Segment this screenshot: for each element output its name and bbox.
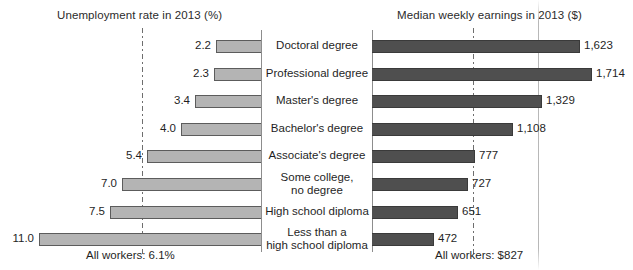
earnings-bar <box>372 40 580 53</box>
unemployment-bar <box>181 123 261 136</box>
chart-row: 5.4Associate's degree777 <box>0 143 633 170</box>
category-label: Doctoral degree <box>264 39 370 52</box>
category-label-line1: Doctoral degree <box>264 39 370 52</box>
unemployment-value-label: 2.3 <box>149 66 209 81</box>
chart-canvas: Unemployment rate in 2013 (%) Median wee… <box>0 0 633 270</box>
earnings-value-label: 651 <box>462 204 481 219</box>
category-label-line2: high school diploma <box>264 239 370 252</box>
unemployment-bar <box>214 68 261 81</box>
right-chart-footnote: All workers: $827 <box>435 249 523 261</box>
category-label: Associate's degree <box>264 149 370 162</box>
earnings-bar <box>372 178 468 191</box>
unemployment-bar <box>195 95 261 108</box>
earnings-bar <box>372 233 434 246</box>
unemployment-value-label: 7.5 <box>45 204 105 219</box>
unemployment-bar <box>147 150 261 163</box>
category-label-line1: High school diploma <box>264 205 370 218</box>
chart-row: 3.4Master's degree1,329 <box>0 88 633 115</box>
earnings-value-label: 1,329 <box>546 93 575 108</box>
unemployment-value-label: 7.0 <box>57 176 117 191</box>
earnings-value-label: 777 <box>479 148 498 163</box>
earnings-bar <box>372 68 592 81</box>
earnings-value-label: 1,714 <box>596 66 625 81</box>
category-label: Some college,no degree <box>264 171 370 196</box>
category-label: Less than ahigh school diploma <box>264 226 370 251</box>
unemployment-value-label: 11.0 <box>0 231 34 246</box>
chart-row: 4.0Bachelor's degree1,108 <box>0 116 633 143</box>
category-label: Bachelor's degree <box>264 122 370 135</box>
category-label: Professional degree <box>264 67 370 80</box>
unemployment-bar <box>216 40 261 53</box>
left-chart-footnote: All workers: 6.1% <box>86 249 175 261</box>
earnings-bar <box>372 123 513 136</box>
unemployment-value-label: 5.4 <box>82 148 142 163</box>
category-label: High school diploma <box>264 205 370 218</box>
category-label-line1: Associate's degree <box>264 149 370 162</box>
unemployment-bar <box>122 178 261 191</box>
chart-row: 2.3Professional degree1,714 <box>0 61 633 88</box>
earnings-bar <box>372 95 542 108</box>
earnings-bar <box>372 206 458 219</box>
earnings-value-label: 727 <box>472 176 491 191</box>
category-label-line1: Less than a <box>264 226 370 239</box>
right-chart-title: Median weekly earnings in 2013 ($) <box>397 9 582 21</box>
earnings-value-label: 472 <box>438 231 457 246</box>
unemployment-bar <box>110 206 261 219</box>
chart-row: 7.5High school diploma651 <box>0 199 633 226</box>
left-chart-title: Unemployment rate in 2013 (%) <box>57 9 222 21</box>
earnings-value-label: 1,108 <box>517 121 546 136</box>
earnings-bar <box>372 150 475 163</box>
category-label-line1: Professional degree <box>264 67 370 80</box>
category-label-line1: Some college, <box>264 171 370 184</box>
unemployment-value-label: 3.4 <box>130 93 190 108</box>
chart-row: 7.0Some college,no degree727 <box>0 171 633 198</box>
unemployment-value-label: 4.0 <box>116 121 176 136</box>
category-label-line1: Bachelor's degree <box>264 122 370 135</box>
unemployment-value-label: 2.2 <box>151 38 211 53</box>
category-label-line1: Master's degree <box>264 94 370 107</box>
earnings-value-label: 1,623 <box>584 38 613 53</box>
chart-row: 2.2Doctoral degree1,623 <box>0 33 633 60</box>
category-label: Master's degree <box>264 94 370 107</box>
category-label-line2: no degree <box>264 184 370 197</box>
unemployment-bar <box>39 233 261 246</box>
